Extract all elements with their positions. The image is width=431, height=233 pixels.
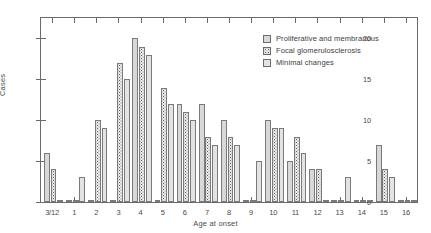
bar [221, 120, 227, 202]
x-axis-tick-label: 13 [336, 208, 344, 217]
bar [398, 200, 404, 202]
x-axis-tick [185, 18, 186, 23]
bar [124, 79, 130, 202]
y-axis-tick [36, 38, 46, 39]
bar [354, 200, 360, 202]
bar [168, 104, 174, 202]
bar [265, 120, 271, 202]
x-axis-tick [362, 18, 363, 23]
x-axis-tick-label: 6 [183, 208, 187, 217]
legend-item[interactable]: Minimal changes [263, 57, 379, 68]
x-axis-tick-label: 11 [292, 208, 299, 217]
bar [132, 38, 138, 202]
bar [234, 145, 240, 202]
bar [243, 200, 249, 202]
bar [44, 153, 50, 202]
bar [287, 161, 293, 202]
bar [323, 200, 329, 202]
bar [212, 145, 218, 202]
x-axis-tick-label: 9 [249, 208, 253, 217]
bar [110, 200, 116, 202]
x-axis-tick-label: 3/12 [45, 208, 59, 217]
bar [250, 200, 256, 202]
bar [405, 200, 411, 202]
bar [411, 200, 417, 202]
bar [117, 63, 123, 202]
x-axis-tick-label: 1 [72, 208, 76, 217]
y-axis-tick-label: 10 [351, 116, 371, 125]
x-axis-tick [118, 18, 119, 23]
x-axis-tick-label: 8 [227, 208, 231, 217]
x-axis-tick-label: 10 [269, 208, 277, 217]
light-stipple-swatch [263, 47, 271, 55]
x-axis-tick [141, 18, 142, 23]
bar [66, 200, 72, 202]
bar [139, 47, 145, 202]
bar [294, 137, 300, 202]
bar [256, 161, 262, 202]
y-axis-tick-label: 15 [351, 75, 371, 84]
x-axis-tick [163, 18, 164, 23]
bar [382, 169, 388, 202]
bar [316, 169, 322, 202]
bar [279, 128, 285, 202]
x-axis-tick [317, 18, 318, 23]
x-axis-tick [52, 18, 53, 23]
bar [345, 177, 351, 202]
x-axis-tick-label: 3 [116, 208, 120, 217]
bar [177, 104, 183, 202]
bar [51, 169, 57, 202]
x-axis-title: Age at onset [0, 219, 431, 228]
bar [95, 120, 101, 202]
x-axis-tick [251, 18, 252, 23]
x-axis-tick-label: 15 [380, 208, 388, 217]
bar [205, 137, 211, 202]
x-axis-tick-label: 12 [313, 208, 321, 217]
y-axis-tick [36, 202, 46, 203]
bar [389, 177, 395, 202]
bar [272, 128, 278, 202]
bar [190, 120, 196, 202]
x-axis-tick-label: 5 [161, 208, 165, 217]
y-axis-tick [36, 120, 46, 121]
x-axis-tick [340, 18, 341, 23]
x-axis-tick-label: 14 [358, 208, 366, 217]
y-axis-tick-label: 5 [351, 157, 371, 166]
bar [88, 200, 94, 202]
bar [155, 200, 161, 202]
bar [161, 88, 167, 202]
dense-dark-stipple-swatch [263, 35, 271, 43]
bar [79, 177, 85, 202]
bar [102, 128, 108, 202]
x-axis-tick-label: 4 [139, 208, 143, 217]
legend-label: Proliferative and membranous [276, 34, 379, 43]
bar [331, 200, 337, 202]
x-axis-tick [207, 18, 208, 23]
bar [338, 200, 344, 202]
bar [199, 104, 205, 202]
x-axis-tick [295, 18, 296, 23]
plot-area: 05101520 3/1212345678910111213141516 Pro… [40, 17, 418, 203]
x-axis-tick [384, 18, 385, 23]
bar [73, 200, 79, 202]
chart-page: Cases Age at onset 05101520 3/1212345678… [0, 0, 431, 233]
x-axis-tick-label: 7 [205, 208, 209, 217]
bar [367, 200, 373, 202]
bar [309, 169, 315, 202]
plain-fill-swatch [263, 59, 271, 67]
bar [376, 145, 382, 202]
legend-item[interactable]: Proliferative and membranous [263, 33, 379, 44]
legend-label: Minimal changes [276, 58, 334, 67]
legend-label: Focal glomerulosclerosis [276, 46, 361, 55]
x-axis-tick [74, 18, 75, 23]
bar [301, 153, 307, 202]
bar [183, 112, 189, 202]
x-axis-tick [229, 18, 230, 23]
y-axis-tick [36, 79, 46, 80]
bar [228, 137, 234, 202]
bar [146, 55, 152, 202]
x-axis-tick [96, 18, 97, 23]
x-axis-tick-label: 2 [94, 208, 98, 217]
legend-item[interactable]: Focal glomerulosclerosis [263, 45, 379, 56]
x-axis-tick [273, 18, 274, 23]
